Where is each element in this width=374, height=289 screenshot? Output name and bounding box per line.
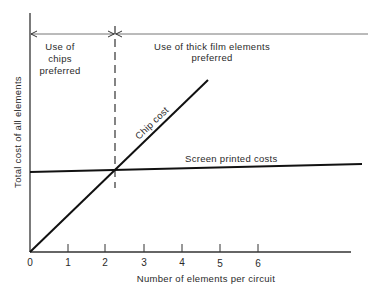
x-ticks xyxy=(68,244,258,252)
x-tick-label-5: 5 xyxy=(217,258,223,269)
region-left-label-line1: Use of xyxy=(45,41,74,52)
x-tick-label-3: 3 xyxy=(141,257,147,268)
series-label-screen-printed: Screen printed costs xyxy=(185,153,278,164)
y-axis-title: Total cost of all elements xyxy=(12,76,23,188)
series-screen-printed-costs xyxy=(30,164,362,172)
region-right-label-line1: Use of thick film elements xyxy=(154,41,270,52)
x-tick-label-0: 0 xyxy=(27,257,33,268)
cost-comparison-chart: 0 1 2 3 4 5 6 Number of elements per cir… xyxy=(0,0,374,289)
region-left-label-line2: chips xyxy=(48,53,72,64)
x-tick-label-6: 6 xyxy=(255,258,261,269)
region-right-label-line2: preferred xyxy=(191,52,232,63)
x-axis-title: Number of elements per circuit xyxy=(137,273,275,284)
x-tick-label-2: 2 xyxy=(102,257,108,268)
series-chip-cost xyxy=(30,80,208,252)
region-left-label-line3: preferred xyxy=(39,65,80,76)
x-tick-label-4: 4 xyxy=(179,257,185,268)
x-tick-label-1: 1 xyxy=(65,257,71,268)
